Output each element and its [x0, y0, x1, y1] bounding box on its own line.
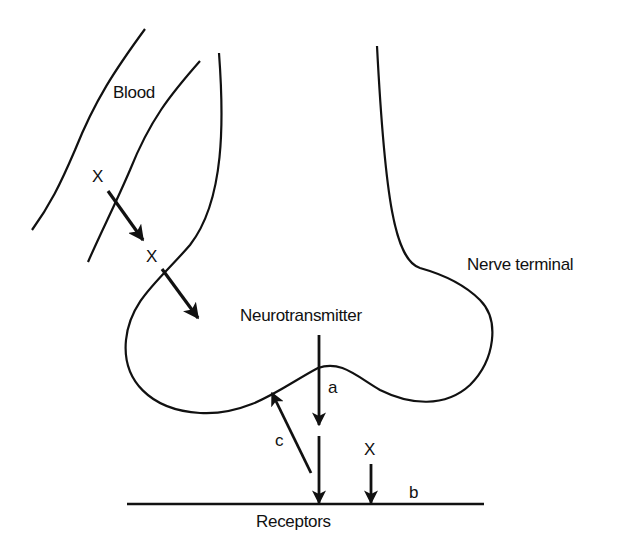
nerve-terminal-outline	[126, 46, 493, 413]
label-neurotransmitter: Neurotransmitter	[240, 307, 362, 324]
diagram-canvas	[0, 0, 632, 555]
label-a: a	[328, 379, 337, 396]
label-receptors: Receptors	[256, 513, 331, 530]
arrow-x-blood	[108, 191, 143, 240]
label-x-crossing: X	[146, 248, 157, 265]
arrow-x-into-terminal	[162, 269, 198, 318]
label-nerve-terminal: Nerve terminal	[467, 256, 573, 273]
label-x-receptor: X	[364, 441, 375, 458]
label-x-blood: X	[92, 168, 103, 185]
label-c: c	[275, 432, 283, 449]
label-b: b	[409, 484, 418, 501]
blood-vessel-wall-outer	[32, 29, 145, 230]
label-blood: Blood	[113, 84, 155, 101]
